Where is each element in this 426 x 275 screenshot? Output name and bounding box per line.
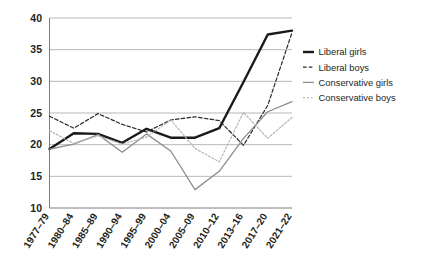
series-line-liberal-girls	[50, 31, 293, 149]
data-series-group	[50, 31, 293, 190]
y-tick-label: 20	[30, 138, 42, 150]
legend-label-liberal-boys: Liberal boys	[319, 62, 370, 73]
x-axis-tick-labels: 1977–791980–841985–891990–941995–992000–…	[21, 211, 294, 250]
y-tick-label: 25	[30, 107, 42, 119]
line-chart: 10152025303540 1977–791980–841985–891990…	[0, 0, 426, 275]
legend-label-conservative-boys: Conservative boys	[319, 92, 396, 103]
y-tick-label: 15	[30, 170, 42, 182]
chart-container: 10152025303540 1977–791980–841985–891990…	[0, 0, 426, 275]
legend-label-liberal-girls: Liberal girls	[319, 46, 367, 57]
y-tick-label: 40	[30, 12, 42, 24]
legend-label-conservative-girls: Conservative girls	[319, 77, 394, 88]
y-tick-label: 35	[30, 43, 42, 55]
y-tick-label: 30	[30, 75, 42, 87]
chart-legend: Liberal girlsLiberal boysConservative gi…	[303, 46, 396, 103]
gridlines-group	[50, 18, 293, 208]
y-axis-tick-labels: 10152025303540	[30, 12, 42, 214]
